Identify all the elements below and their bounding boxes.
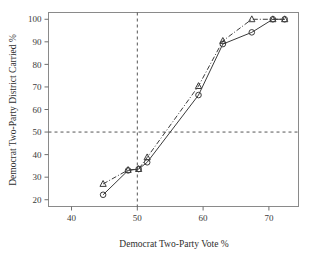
y-axis-ticks: 2030405060708090100 <box>28 14 49 204</box>
chart-page: 2030405060708090100 40506070 Democrat Tw… <box>0 0 314 259</box>
x-axis-ticks: 40506070 <box>67 207 274 223</box>
scatter-line-chart: 2030405060708090100 40506070 Democrat Tw… <box>0 0 314 259</box>
series-markers <box>100 16 288 198</box>
y-tick-label: 70 <box>33 82 43 92</box>
x-tick-label: 60 <box>199 213 209 223</box>
x-tick-label: 70 <box>264 213 274 223</box>
y-tick-label: 40 <box>33 150 43 160</box>
data-point-circle <box>196 92 202 98</box>
y-tick-label: 100 <box>28 14 42 24</box>
y-tick-label: 50 <box>33 127 43 137</box>
x-axis-title: Democrat Two-Party Vote % <box>119 239 228 249</box>
y-tick-label: 30 <box>33 172 43 182</box>
y-tick-label: 90 <box>33 37 43 47</box>
reference-lines <box>49 13 299 207</box>
y-axis-title: Democrat Two-Party District Carried % <box>8 34 18 186</box>
data-point-circle <box>144 159 150 165</box>
y-tick-label: 20 <box>33 195 43 205</box>
x-tick-label: 50 <box>133 213 143 223</box>
y-tick-label: 80 <box>33 60 43 70</box>
data-point-circle <box>249 30 255 36</box>
plot-border <box>49 13 299 207</box>
x-tick-label: 40 <box>67 213 77 223</box>
y-tick-label: 60 <box>33 105 43 115</box>
data-point-circle <box>100 192 106 198</box>
plot-frame <box>49 13 299 207</box>
